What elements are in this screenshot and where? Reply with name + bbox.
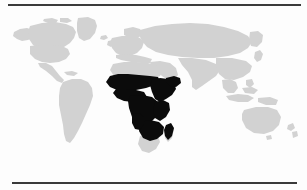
region-greenland <box>77 17 97 41</box>
figure-rule-top <box>8 4 301 6</box>
region-central-south-asia <box>178 58 220 90</box>
region-southeast-asia <box>222 79 238 93</box>
region-south-america <box>59 79 93 143</box>
region-europe-west <box>110 36 144 56</box>
region-east-asia <box>216 58 252 80</box>
region-indonesia-a <box>226 94 254 102</box>
region-russia-north-asia <box>139 23 252 58</box>
landmass-highlight-group <box>106 74 181 141</box>
region-mexico-central-america <box>38 63 64 83</box>
region-united-states <box>30 45 70 63</box>
region-indonesia-b <box>242 87 258 94</box>
region-new-guinea <box>258 97 278 105</box>
highlight-great-lakes <box>153 100 170 121</box>
region-new-zealand-a <box>287 123 295 131</box>
region-japan <box>254 50 263 62</box>
world-map-svg <box>0 10 307 175</box>
region-arctic-islands-b <box>60 18 72 23</box>
region-caribbean <box>64 71 78 76</box>
region-arctic-islands-a <box>43 18 58 23</box>
region-iceland <box>100 35 108 40</box>
region-southern-europe <box>116 54 152 63</box>
figure-container <box>0 0 307 190</box>
region-philippines <box>246 79 254 88</box>
region-australia <box>242 107 281 134</box>
region-tasmania <box>266 135 272 140</box>
region-far-east-asia <box>249 31 263 47</box>
figure-rule-bottom <box>12 182 297 184</box>
world-map <box>0 10 307 175</box>
region-new-zealand-b <box>292 131 298 138</box>
